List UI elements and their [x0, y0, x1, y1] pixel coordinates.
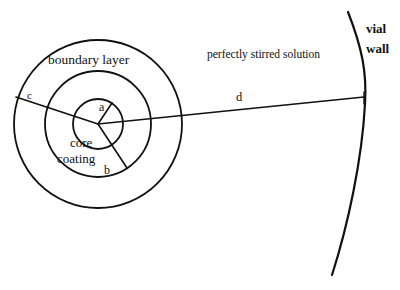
- radius-d-line: [98, 97, 364, 124]
- radius-c-label: c: [27, 90, 32, 101]
- boundary-layer-label: boundary layer: [48, 53, 129, 67]
- diagram-svg: [0, 0, 400, 290]
- vial-wall-arc: [332, 12, 365, 275]
- stirred-solution-label: perfectly stirred solution: [207, 49, 320, 61]
- radius-b-label: b: [104, 164, 110, 176]
- core-label: core: [70, 136, 92, 149]
- radius-c-line: [16, 97, 98, 124]
- coating-label: coating: [57, 152, 95, 165]
- radius-a-label: a: [99, 101, 104, 113]
- distance-d-label: d: [236, 91, 242, 104]
- vial-wall-label-line2: wall: [366, 42, 389, 55]
- diagram-canvas: boundary layer core coating perfectly st…: [0, 0, 400, 290]
- vial-wall-label-line1: vial: [366, 22, 386, 35]
